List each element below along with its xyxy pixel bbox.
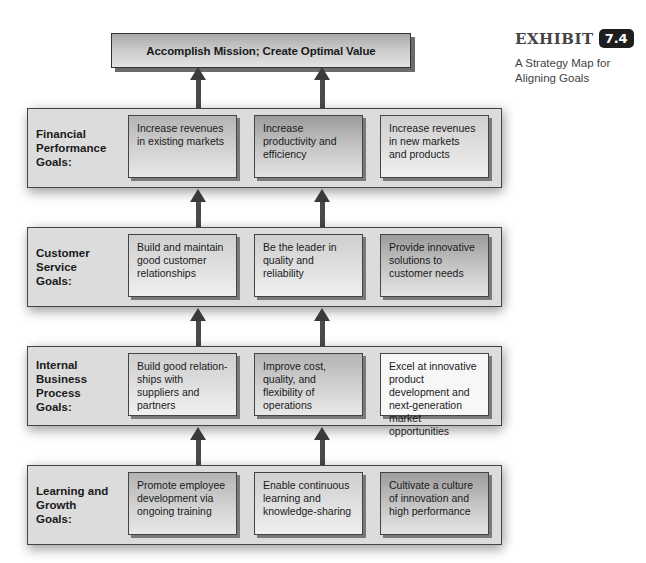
label-line: Service [36,260,121,274]
goal-box: Be the leader in quality and reliability [254,234,363,297]
label-line: Financial [36,127,121,141]
arrow-up-icon [190,308,206,346]
exhibit-header: EXHIBIT 7.4 A Strategy Map for Aligning … [515,29,646,86]
mission-box: Accomplish Mission; Create Optimal Value [111,33,411,68]
arrow-up-icon [314,67,330,108]
section-internal: Internal Business Process Goals: Build g… [27,346,502,426]
section-label: Internal Business Process Goals: [36,347,121,425]
label-line: Goals: [36,400,121,414]
label-line: Process [36,386,121,400]
arrow-up-icon [190,189,206,227]
goal-box: Cultivate a culture of innovation and hi… [380,472,489,535]
label-line: Learning and [36,484,121,498]
goal-box: Improve cost, quality, and flexibility o… [254,353,363,416]
goal-box: Provide innovative solutions to customer… [380,234,489,297]
arrow-up-icon [190,427,206,465]
label-line: Internal [36,358,121,372]
arrow-up-icon [314,189,330,227]
exhibit-title: EXHIBIT 7.4 [515,29,646,48]
exhibit-number-badge: 7.4 [599,29,634,48]
section-label: Learning and Growth Goals: [36,466,121,544]
section-label: Financial Performance Goals: [36,109,121,187]
goal-box: Promote employee development via ongoing… [128,472,237,535]
label-line: Goals: [36,155,121,169]
goal-box: Build good relation-ships with suppliers… [128,353,237,416]
label-line: Growth [36,498,121,512]
label-line: Goals: [36,512,121,526]
section-learning: Learning and Growth Goals: Promote emplo… [27,465,502,545]
goal-box: Enable continuous learning and knowledge… [254,472,363,535]
section-label: Customer Service Goals: [36,228,121,306]
section-customer: Customer Service Goals: Build and mainta… [27,227,502,307]
label-line: Goals: [36,274,121,288]
label-line: Business [36,372,121,386]
arrow-up-icon [314,308,330,346]
goal-box: Increase revenues in existing markets [128,115,237,178]
goal-box: Excel at innovative product development … [380,353,489,416]
goal-box: Build and maintain good customer relatio… [128,234,237,297]
section-financial: Financial Performance Goals: Increase re… [27,108,502,188]
label-line: Customer [36,246,121,260]
mission-label: Accomplish Mission; Create Optimal Value [146,45,375,57]
goal-box: Increase productivity and efficiency [254,115,363,178]
exhibit-word: EXHIBIT [515,30,594,48]
label-line: Performance [36,141,121,155]
arrow-up-icon [314,427,330,465]
arrow-up-icon [190,67,206,108]
exhibit-caption: A Strategy Map for Aligning Goals [515,56,646,86]
goal-box: Increase revenues in new markets and pro… [380,115,489,178]
